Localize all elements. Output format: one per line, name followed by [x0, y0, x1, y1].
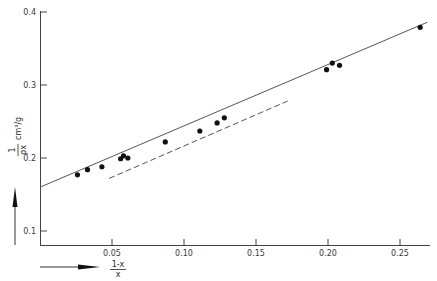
data-point	[418, 25, 423, 30]
y-label-denominator: ρx	[19, 145, 28, 155]
y-tick-label: 0.1	[23, 227, 36, 236]
y-ticks: 0.10.20.30.4	[23, 8, 47, 236]
data-point	[215, 120, 220, 125]
y-arrow-head-icon	[13, 187, 18, 207]
fit-lines	[40, 22, 427, 187]
x-tick-label: 0.10	[175, 249, 193, 258]
y-axis-label: 1 ρx cm³/g	[8, 117, 28, 245]
data-point	[222, 115, 227, 120]
fit-dashed	[109, 101, 288, 178]
chart: 0.10.20.30.4 0.050.100.150.200.25 1 ρx c…	[0, 0, 437, 281]
data-point	[330, 61, 335, 66]
fit-solid	[40, 22, 427, 187]
data-point	[163, 139, 168, 144]
data-points	[75, 25, 423, 178]
x-label-numerator: 1-x	[112, 260, 125, 269]
x-axis-label: 1-x x	[40, 260, 126, 279]
data-point	[125, 155, 130, 160]
x-tick-label: 0.25	[391, 249, 409, 258]
data-point	[75, 172, 80, 177]
data-point	[99, 164, 104, 169]
y-tick-label: 0.3	[23, 81, 36, 90]
data-point	[337, 63, 342, 68]
x-tick-label: 0.20	[319, 249, 337, 258]
x-tick-label: 0.15	[247, 249, 265, 258]
x-tick-label: 0.05	[103, 249, 121, 258]
data-point	[324, 67, 329, 72]
x-ticks: 0.050.100.150.200.25	[103, 239, 409, 258]
x-arrow-head-icon	[78, 265, 100, 270]
x-label-denominator: x	[116, 270, 121, 279]
data-point	[85, 167, 90, 172]
y-label-numerator: 1	[8, 147, 17, 152]
data-point	[197, 128, 202, 133]
y-tick-label: 0.4	[23, 8, 36, 17]
y-label-units: cm³/g	[14, 117, 23, 140]
